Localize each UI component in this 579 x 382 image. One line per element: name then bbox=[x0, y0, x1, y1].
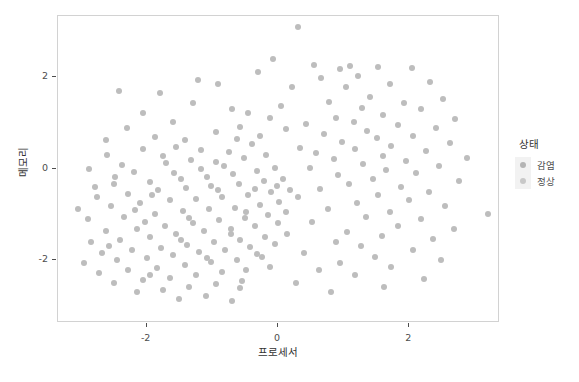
data-point bbox=[204, 174, 210, 180]
data-point bbox=[158, 245, 164, 251]
data-point bbox=[358, 243, 364, 249]
data-point bbox=[215, 81, 221, 87]
data-point bbox=[283, 209, 289, 215]
data-point bbox=[237, 124, 243, 130]
data-point bbox=[380, 112, 386, 118]
data-point bbox=[154, 265, 160, 271]
data-point bbox=[178, 237, 184, 243]
data-point bbox=[230, 171, 236, 177]
data-point bbox=[257, 202, 263, 208]
data-point bbox=[112, 174, 118, 180]
data-point bbox=[241, 155, 247, 161]
data-point bbox=[173, 231, 179, 237]
data-point bbox=[344, 229, 350, 235]
data-point bbox=[303, 121, 309, 127]
data-point bbox=[75, 206, 81, 212]
data-point bbox=[352, 146, 358, 152]
data-point bbox=[104, 152, 110, 158]
data-point bbox=[149, 192, 155, 198]
data-point bbox=[140, 277, 146, 283]
y-tick-label: 0 bbox=[34, 163, 48, 173]
x-tick-mark bbox=[408, 323, 409, 327]
data-point bbox=[359, 105, 365, 111]
data-point bbox=[103, 137, 109, 143]
data-point bbox=[222, 247, 228, 253]
data-point bbox=[85, 216, 91, 222]
data-point bbox=[383, 167, 389, 173]
data-point bbox=[337, 260, 343, 266]
data-point bbox=[125, 267, 131, 273]
data-point bbox=[379, 233, 385, 239]
data-point bbox=[229, 298, 235, 304]
data-point bbox=[152, 134, 158, 140]
data-point bbox=[339, 139, 345, 145]
data-point bbox=[293, 280, 299, 286]
data-point bbox=[374, 135, 380, 141]
data-point bbox=[395, 223, 401, 229]
data-point bbox=[213, 159, 219, 165]
data-point bbox=[418, 216, 424, 222]
data-point bbox=[352, 272, 358, 278]
data-point bbox=[173, 144, 179, 150]
data-point bbox=[215, 187, 221, 193]
data-point bbox=[430, 236, 436, 242]
data-point bbox=[413, 170, 419, 176]
data-point bbox=[119, 162, 125, 168]
data-point bbox=[171, 170, 177, 176]
x-tick-mark bbox=[277, 323, 278, 327]
data-point bbox=[456, 178, 462, 184]
data-point bbox=[317, 186, 323, 192]
data-point bbox=[239, 278, 245, 284]
data-point bbox=[163, 160, 169, 166]
data-point bbox=[295, 194, 301, 200]
data-point bbox=[134, 226, 140, 232]
data-point bbox=[335, 172, 341, 178]
data-point bbox=[134, 289, 140, 295]
data-point bbox=[108, 203, 114, 209]
data-point bbox=[321, 131, 327, 137]
data-point bbox=[111, 181, 117, 187]
data-point bbox=[295, 24, 301, 30]
data-point bbox=[96, 270, 102, 276]
legend-item-normal[interactable]: 정상 bbox=[515, 173, 577, 189]
x-tick-mark bbox=[146, 323, 147, 327]
x-tick-label: -2 bbox=[131, 332, 161, 343]
data-point bbox=[125, 191, 131, 197]
data-point bbox=[331, 156, 337, 162]
data-point bbox=[142, 219, 148, 225]
data-point bbox=[184, 242, 190, 248]
data-point bbox=[337, 66, 343, 72]
data-point bbox=[178, 176, 184, 182]
legend-item-label: 감염 bbox=[531, 158, 555, 172]
data-point bbox=[245, 110, 251, 116]
data-point bbox=[438, 257, 444, 263]
data-point bbox=[452, 116, 458, 122]
data-point bbox=[204, 255, 210, 261]
data-point bbox=[346, 181, 352, 187]
data-point bbox=[117, 237, 123, 243]
data-point bbox=[190, 220, 196, 226]
data-point bbox=[410, 133, 416, 139]
data-point bbox=[268, 189, 274, 195]
legend-item-label: 정상 bbox=[531, 174, 555, 188]
data-point bbox=[387, 209, 393, 215]
data-point bbox=[274, 183, 280, 189]
data-point bbox=[157, 90, 163, 96]
data-point bbox=[245, 192, 251, 198]
data-point bbox=[380, 153, 386, 159]
data-point bbox=[219, 269, 225, 275]
data-point bbox=[255, 69, 261, 75]
data-point bbox=[284, 231, 290, 237]
data-point bbox=[144, 255, 150, 261]
data-point bbox=[86, 166, 92, 172]
legend-item-infected[interactable]: 감염 bbox=[515, 157, 577, 173]
data-point bbox=[333, 115, 339, 121]
data-point bbox=[351, 119, 357, 125]
data-point bbox=[94, 194, 100, 200]
data-point bbox=[301, 250, 307, 256]
data-point bbox=[364, 128, 370, 134]
data-point bbox=[278, 103, 284, 109]
data-point bbox=[347, 63, 353, 69]
data-point bbox=[114, 257, 120, 263]
legend-title: 상태 bbox=[515, 136, 577, 151]
